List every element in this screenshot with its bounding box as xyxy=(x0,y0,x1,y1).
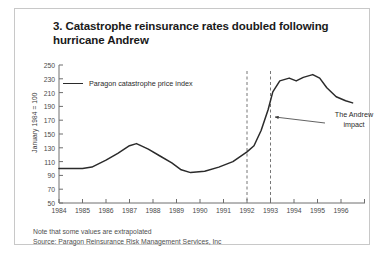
y-tick-230: 230 xyxy=(33,75,55,82)
footnote-source: Source: Paragon Reinsurance Risk Managem… xyxy=(33,238,222,245)
y-tick-110: 110 xyxy=(33,158,55,165)
x-tick-1984: 1984 xyxy=(51,207,66,214)
legend-line-swatch xyxy=(63,83,83,84)
x-tick-1991: 1991 xyxy=(216,207,231,214)
y-tick-130: 130 xyxy=(33,144,55,151)
x-tick-1995: 1995 xyxy=(310,207,325,214)
annotation-the-andrew-impact: The Andrew impact xyxy=(328,110,380,129)
x-tick-1996: 1996 xyxy=(333,207,348,214)
legend-label: Paragon catastrophe price index xyxy=(89,79,193,88)
y-tick-50: 50 xyxy=(33,200,55,207)
x-tick-1994: 1994 xyxy=(286,207,301,214)
x-tick-marks xyxy=(59,199,365,203)
x-tick-1987: 1987 xyxy=(122,207,137,214)
y-tick-250: 250 xyxy=(33,62,55,69)
annotation-leader-line xyxy=(275,117,325,123)
y-tick-90: 90 xyxy=(33,172,55,179)
x-tick-1993: 1993 xyxy=(263,207,278,214)
series-line-paragon-index xyxy=(59,75,353,173)
y-tick-70: 70 xyxy=(33,186,55,193)
y-tick-190: 190 xyxy=(33,103,55,110)
x-tick-1985: 1985 xyxy=(75,207,90,214)
x-tick-1992: 1992 xyxy=(239,207,254,214)
footnote-note: Note that some values are extrapolated xyxy=(33,228,152,235)
x-tick-1989: 1989 xyxy=(169,207,184,214)
y-tick-210: 210 xyxy=(33,89,55,96)
x-tick-1988: 1988 xyxy=(145,207,160,214)
figure-frame: 3. Catastrophe reinsurance rates doubled… xyxy=(14,8,370,245)
y-tick-170: 170 xyxy=(33,117,55,124)
y-tick-150: 150 xyxy=(33,131,55,138)
chart-legend: Paragon catastrophe price index xyxy=(63,79,193,88)
x-tick-1990: 1990 xyxy=(192,207,207,214)
x-tick-1986: 1986 xyxy=(98,207,113,214)
chart-plot-area: January 1984 = 100 250 230 210 190 170 1… xyxy=(15,9,371,246)
